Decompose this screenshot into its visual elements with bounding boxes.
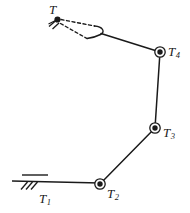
joint-t2-pin	[97, 181, 102, 186]
ground-symbol	[12, 175, 100, 190]
link-joint4-to-gripper	[101, 34, 160, 53]
link-joint2-to-joint3	[100, 128, 155, 184]
label-joint4: T4	[168, 45, 180, 60]
tool-point-group	[49, 16, 61, 29]
tool-point-dot	[54, 16, 60, 22]
gripper-jaw-upper	[61, 20, 95, 27]
link-joint3-to-joint4	[155, 52, 160, 128]
tool-mark-2	[53, 23, 60, 29]
ground-main-line	[12, 181, 100, 183]
linkage-drawing	[0, 0, 190, 213]
joints-group	[95, 47, 165, 189]
gripper-jaw-lower	[61, 24, 88, 39]
label-tool: T	[49, 3, 56, 16]
label-joint3: T3	[163, 126, 175, 141]
label-joint1: T1	[39, 192, 51, 207]
links-group	[100, 34, 160, 185]
kinematic-chain-figure: T T1 T2 T3 T4	[0, 0, 190, 213]
gripper-group	[61, 20, 95, 39]
joint-t4-pin	[157, 49, 162, 54]
label-joint2: T2	[107, 187, 119, 202]
joint-t3-pin	[152, 125, 157, 130]
gripper-hook	[87, 26, 103, 39]
